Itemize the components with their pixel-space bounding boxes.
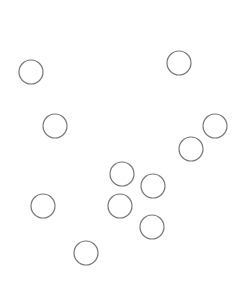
background <box>0 0 246 292</box>
circle-diagram <box>0 0 246 292</box>
